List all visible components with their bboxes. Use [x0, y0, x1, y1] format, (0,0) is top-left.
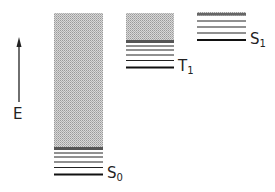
s0-continuum-band: [54, 13, 103, 149]
diagram-graphics: [0, 0, 275, 192]
t1-continuum-band: [126, 13, 174, 41]
s1-level: [197, 12, 246, 40]
energy-axis-label: E: [13, 107, 22, 122]
s0-level: [54, 13, 103, 175]
t1-level: [126, 13, 174, 68]
s0-label: S0: [107, 166, 123, 183]
energy-level-diagram: E S0 T1 S1: [0, 0, 275, 192]
t1-label: T1: [178, 59, 194, 76]
s1-label: S1: [250, 32, 266, 49]
energy-axis-arrow: [17, 37, 22, 102]
